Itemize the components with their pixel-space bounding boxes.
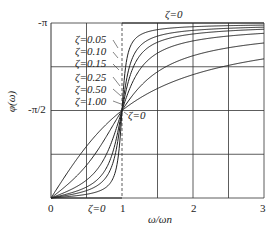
legend-leader-line xyxy=(113,40,118,48)
legend-zeta-100: ζ=1.00 xyxy=(75,96,106,107)
legend-leader-line xyxy=(113,77,120,86)
legend-zeta-025: ζ=0.25 xyxy=(75,72,106,83)
legend-leader-line xyxy=(113,52,118,58)
x-tick-2: 2 xyxy=(191,203,197,214)
y-tick-neg-half-pi: -π/2 xyxy=(28,104,46,115)
legend-leader-line xyxy=(113,101,121,104)
legend-zeta-050: ζ=0.50 xyxy=(75,84,106,95)
legend-leader-line xyxy=(113,89,121,96)
x-axis-label: ω/ωn xyxy=(148,214,172,225)
x-tick-1: 1 xyxy=(120,203,126,214)
legend-zeta-010: ζ=0.10 xyxy=(75,46,106,57)
y-tick-neg-pi: -π xyxy=(38,17,47,28)
x-tick-3: 3 xyxy=(260,203,266,214)
y-axis-label: φ(ω) xyxy=(6,91,17,112)
legend-zeta-015: ζ=0.15 xyxy=(75,58,106,69)
x-tick-0: 0 xyxy=(48,203,54,214)
legend-zeta-005: ζ=0.05 xyxy=(75,34,106,45)
zeta-zero-bottom-label: ζ=0 xyxy=(88,203,105,214)
zeta-zero-mid-label: ζ=0 xyxy=(128,110,145,121)
zeta-zero-top-label: ζ=0 xyxy=(165,9,182,20)
